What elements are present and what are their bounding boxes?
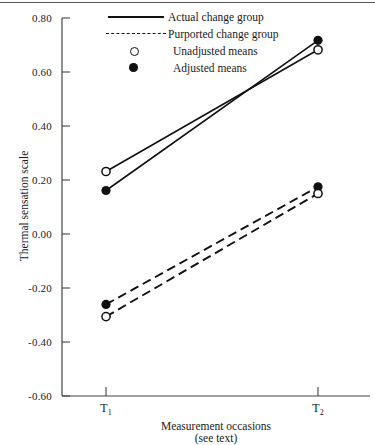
y-tick-label: 0.80 (8, 13, 52, 24)
y-tick-label: 0.40 (8, 121, 52, 132)
series-line-purported-unadjusted (106, 194, 318, 317)
legend-label: Adjusted means (168, 62, 247, 74)
open-circle-icon (104, 42, 168, 59)
x-tick-sub: 1 (108, 408, 112, 417)
y-tick-label: -0.60 (8, 391, 52, 402)
legend-item-actual-change-group: Actual change group (104, 8, 344, 25)
y-tick-label: -0.20 (8, 283, 52, 294)
marker-unadjusted-purported-t1 (102, 313, 110, 321)
series-line-purported-adjusted (106, 187, 318, 305)
x-tick-sub: 2 (320, 408, 324, 417)
legend-item-adjusted-means: Adjusted means (104, 59, 344, 76)
legend-label: Actual change group (168, 11, 264, 23)
x-axis-title-note: (see text) (62, 432, 370, 445)
y-axis-title: Thermal sensation scale (18, 116, 30, 296)
y-axis-ticks (62, 18, 70, 396)
legend-label: Purported change group (168, 28, 279, 40)
legend-item-purported-change-group: Purported change group (104, 25, 344, 42)
marker-adjusted-actual-t1 (101, 186, 110, 195)
y-axis-title-text: Thermal sensation scale (18, 151, 30, 262)
legend-item-unadjusted-means: Unadjusted means (104, 42, 344, 59)
solid-line-icon (104, 8, 168, 25)
marker-adjusted-purported-t1 (101, 300, 110, 309)
legend: Actual change group Purported change gro… (104, 8, 344, 76)
filled-circle-icon (104, 59, 168, 76)
y-tick-label: 0.60 (8, 67, 52, 78)
x-tick-base: T (312, 401, 319, 415)
x-axis-ticks (106, 387, 318, 396)
y-tick-label: 0.00 (8, 229, 52, 240)
x-tick-label-t2: T2 (298, 402, 338, 417)
y-tick-label: 0.20 (8, 175, 52, 186)
x-tick-base: T (100, 401, 107, 415)
dashed-line-icon (104, 25, 168, 42)
marker-unadjusted-actual-t1 (102, 167, 110, 175)
y-tick-label: -0.40 (8, 337, 52, 348)
x-tick-label-t1: T1 (86, 402, 126, 417)
marker-unadjusted-purported-t2 (314, 189, 322, 197)
legend-label: Unadjusted means (168, 45, 258, 57)
